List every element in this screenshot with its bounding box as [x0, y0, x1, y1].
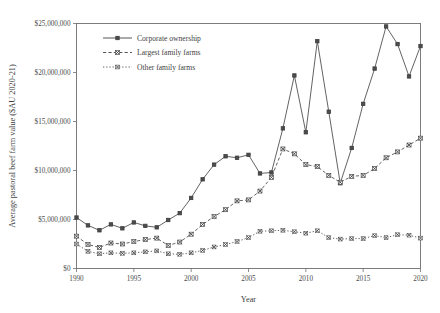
- x-axis-title: Year: [241, 295, 257, 304]
- series-3: [75, 228, 423, 256]
- data-series-group: [75, 25, 423, 256]
- y-tick-label: $25,000,000: [35, 20, 71, 28]
- x-tick-label: 2015: [356, 275, 371, 283]
- y-axis-ticks: $0$5,000,000$10,000,000$15,000,000$20,00…: [35, 20, 77, 273]
- legend-marker-2: [116, 51, 120, 55]
- x-tick-label: 2020: [413, 275, 428, 283]
- legend-marker-3: [116, 65, 120, 69]
- y-tick-label: $15,000,000: [35, 118, 71, 126]
- y-axis-title: Average pastoral beef farm value ($AU 20…: [8, 64, 17, 228]
- x-axis-ticks: 1990199520002005201020152020: [69, 269, 428, 283]
- x-tick-label: 2010: [299, 275, 314, 283]
- y-tick-label: $20,000,000: [35, 69, 71, 77]
- y-tick-label: $10,000,000: [35, 167, 71, 175]
- legend-label-1: Corporate ownership: [137, 34, 201, 43]
- plot-area-frame: [77, 24, 421, 269]
- chart-legend: Corporate ownershipLargest family farmsO…: [103, 34, 201, 72]
- chart-figure: $0$5,000,000$10,000,000$15,000,000$20,00…: [0, 0, 440, 313]
- x-tick-label: 1995: [127, 275, 142, 283]
- legend-label-3: Other family farms: [137, 63, 195, 72]
- legend-marker-1: [116, 36, 119, 39]
- x-tick-label: 1990: [69, 275, 84, 283]
- y-tick-label: $5,000,000: [38, 216, 71, 224]
- line-chart: $0$5,000,000$10,000,000$15,000,000$20,00…: [0, 0, 440, 313]
- y-tick-label: $0: [63, 265, 71, 273]
- x-tick-label: 2000: [184, 275, 199, 283]
- legend-label-2: Largest family farms: [137, 48, 201, 57]
- x-tick-label: 2005: [241, 275, 256, 283]
